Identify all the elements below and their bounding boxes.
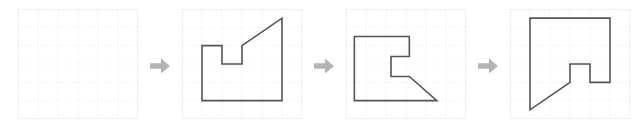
shape-panel-rotated-180-canvas <box>510 0 630 132</box>
right-arrow-glyph <box>150 59 170 74</box>
right-margin-spacer <box>630 0 644 132</box>
dotted-grid <box>18 9 138 119</box>
empty-grid-panel-canvas <box>18 0 138 132</box>
right-arrow-glyph <box>314 59 334 74</box>
empty-grid-panel <box>18 0 138 132</box>
left-margin-spacer <box>0 0 18 132</box>
right-arrow-icon <box>477 56 499 76</box>
transform-arrow-3: → <box>466 0 510 132</box>
shape-panel-rotated-90 <box>346 0 466 132</box>
right-arrow-icon <box>149 56 171 76</box>
shape-outline <box>202 18 282 101</box>
transform-arrow-2: → <box>302 0 346 132</box>
right-arrow-icon <box>313 56 335 76</box>
transform-arrow-1: → <box>138 0 182 132</box>
dotted-grid <box>346 9 466 119</box>
right-arrow-glyph <box>478 59 498 74</box>
shape-panel-original-canvas <box>182 0 302 132</box>
shape-panel-rotated-180 <box>510 0 630 132</box>
shape-panel-original <box>182 0 302 132</box>
shape-panel-rotated-90-canvas <box>346 0 466 132</box>
shape-outline <box>354 37 437 101</box>
shape-sequence-strip: →→→ <box>0 0 644 132</box>
